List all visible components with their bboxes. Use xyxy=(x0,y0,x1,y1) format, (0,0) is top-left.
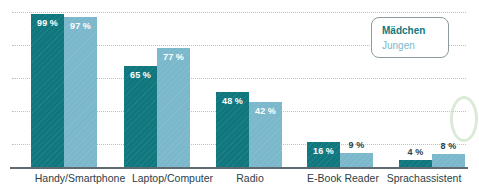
x-axis-line xyxy=(10,167,468,169)
bar-value-jungen-laptop-computer: 77 % xyxy=(157,52,190,62)
category-label-sprachassistent: Sprachassistent xyxy=(369,172,479,184)
bar-maedchen-e-book-reader[interactable]: 16 % xyxy=(307,142,340,167)
bar-jungen-e-book-reader[interactable]: 9 % xyxy=(340,153,373,167)
bar-jungen-sprachassistent[interactable]: 8 % xyxy=(432,154,465,167)
bar-value-maedchen-radio: 48 % xyxy=(216,96,249,106)
legend-item-jungen: Jungen xyxy=(382,38,448,53)
bar-jungen-handy-smartphone[interactable]: 97 % xyxy=(64,17,97,167)
bar-maedchen-handy-smartphone[interactable]: 99 % xyxy=(31,14,64,167)
bar-maedchen-radio[interactable]: 48 % xyxy=(216,92,249,167)
bar-value-maedchen-e-book-reader: 16 % xyxy=(307,146,340,156)
bar-value-jungen-e-book-reader: 9 % xyxy=(340,140,373,150)
bars: 65 % 77 % xyxy=(124,12,190,167)
bars: 99 % 97 % xyxy=(31,12,97,167)
bar-value-maedchen-sprachassistent: 4 % xyxy=(399,147,432,157)
bar-maedchen-sprachassistent[interactable]: 4 % xyxy=(399,160,432,167)
bar-value-jungen-sprachassistent: 8 % xyxy=(432,141,465,151)
bar-maedchen-laptop-computer[interactable]: 65 % xyxy=(124,66,157,167)
legend: Mädchen Jungen xyxy=(371,17,449,58)
bars: 48 % 42 % xyxy=(216,12,282,167)
bar-jungen-laptop-computer[interactable]: 77 % xyxy=(157,48,190,167)
legend-item-maedchen: Mädchen xyxy=(382,23,448,38)
bar-value-jungen-handy-smartphone: 97 % xyxy=(64,21,97,31)
bar-jungen-radio[interactable]: 42 % xyxy=(249,102,282,167)
bars: 16 % 9 % xyxy=(307,12,373,167)
bar-value-jungen-radio: 42 % xyxy=(249,106,282,116)
bar-value-maedchen-laptop-computer: 65 % xyxy=(124,70,157,80)
bar-value-maedchen-handy-smartphone: 99 % xyxy=(31,18,64,28)
edge-artifact xyxy=(450,96,478,142)
